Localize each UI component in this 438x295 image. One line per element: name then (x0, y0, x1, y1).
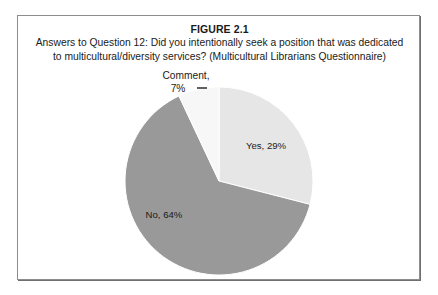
pie-chart: Comment, 7% Yes, 29% No, 64% (18, 16, 421, 281)
comment-label-name: Comment, (163, 70, 210, 81)
pie-label-no: No, 64% (146, 209, 183, 220)
figure-page: FIGURE 2.1 Answers to Question 12: Did y… (0, 0, 438, 295)
pie-label-yes: Yes, 29% (246, 140, 287, 151)
pie-slices (125, 87, 313, 275)
comment-label-value: 7% (171, 83, 186, 94)
figure-frame: FIGURE 2.1 Answers to Question 12: Did y… (17, 15, 420, 280)
pie-chart-svg: Comment, 7% Yes, 29% No, 64% (18, 16, 421, 281)
